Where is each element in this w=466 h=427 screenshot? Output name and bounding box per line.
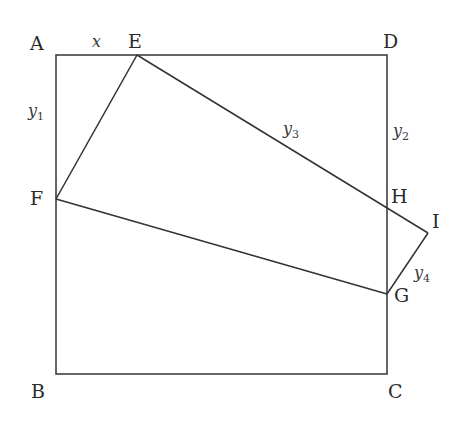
segment-ie [137, 55, 428, 233]
geometry-figure: A E D F H I G B C x y1 y2 y3 y4 [0, 0, 466, 427]
var-y3: y3 [282, 119, 299, 141]
label-g: G [394, 284, 409, 306]
label-h: H [391, 185, 408, 207]
segment-fg [56, 199, 387, 294]
var-x: x [92, 32, 101, 51]
label-c: C [388, 380, 403, 402]
label-d: D [383, 30, 398, 52]
diagram-canvas: A E D F H I G B C x y1 y2 y3 y4 [0, 0, 466, 427]
segment-ef [56, 55, 137, 199]
label-b: B [31, 380, 45, 402]
label-e: E [128, 30, 142, 52]
label-a: A [29, 32, 44, 54]
label-f: F [30, 187, 43, 209]
var-y1: y1 [27, 101, 44, 123]
label-i: I [432, 210, 440, 232]
var-y2: y2 [392, 121, 409, 143]
var-y4: y4 [413, 263, 430, 285]
square-abcd [56, 55, 387, 374]
